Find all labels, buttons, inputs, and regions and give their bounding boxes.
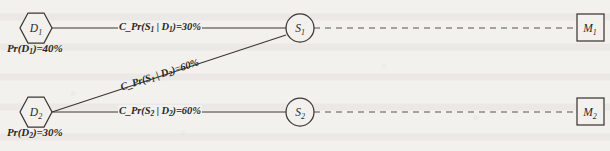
edge-label-d2-s2: C_Pr(S2 | D2)=60% — [118, 105, 202, 118]
diagram-canvas: D1 D2 S1 S2 M1 M2 Pr(D1)=40% Pr(D2) — [0, 0, 610, 151]
diagram-graph: D1 D2 S1 S2 M1 M2 — [0, 0, 610, 151]
edge-label-d1-s1: C_Pr(S1 | D1)=30% — [118, 21, 202, 34]
annotation-d2-prior: Pr(D2)=30% — [7, 126, 62, 140]
annotation-d1-prior: Pr(D1)=40% — [7, 42, 62, 56]
